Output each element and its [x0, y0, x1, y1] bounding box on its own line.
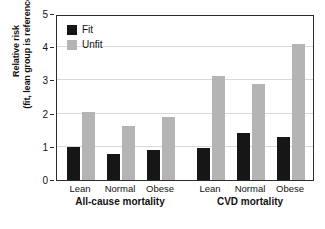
bar-unfit-obese-allcause [162, 117, 175, 180]
legend-label-fit: Fit [82, 25, 93, 35]
bar-fit-lean-allcause [67, 147, 80, 180]
plot-area: Fit Unfit [56, 15, 314, 181]
y-tick-mark-1 [50, 147, 54, 148]
gridline-1 [57, 146, 313, 147]
y-tick-mark-2 [50, 114, 54, 115]
bar-fit-obese-allcause [147, 150, 160, 180]
legend-swatch-fit [67, 25, 77, 35]
chart-legend: Fit Unfit [67, 23, 103, 53]
bar-unfit-lean-cvd [212, 76, 225, 180]
legend-label-unfit: Unfit [82, 40, 103, 50]
bar-fit-obese-cvd [277, 137, 290, 180]
legend-swatch-unfit [67, 40, 77, 50]
y-axis-ticks: 012345 [0, 15, 54, 181]
y-tick-label-0: 0 [34, 176, 48, 186]
gridline-2 [57, 113, 313, 114]
bar-unfit-normal-cvd [252, 84, 265, 180]
bar-unfit-obese-cvd [292, 44, 305, 180]
bar-unfit-normal-allcause [122, 126, 135, 180]
y-tick-label-1: 1 [34, 143, 48, 153]
y-tick-mark-5 [50, 14, 54, 15]
y-tick-mark-3 [50, 80, 54, 81]
group-label-allcause: All-cause mortality [50, 196, 190, 208]
y-tick-label-3: 3 [34, 76, 48, 86]
legend-item-fit: Fit [67, 23, 103, 36]
gridline-3 [57, 79, 313, 80]
y-tick-label-5: 5 [34, 10, 48, 20]
bar-chart: Relative risk (fit, lean group is refere… [0, 0, 325, 229]
y-tick-label-2: 2 [34, 110, 48, 120]
y-tick-mark-4 [50, 47, 54, 48]
y-tick-label-4: 4 [34, 43, 48, 53]
y-tick-mark-0 [50, 180, 54, 181]
bar-fit-lean-cvd [197, 148, 210, 180]
bar-unfit-lean-allcause [82, 112, 95, 180]
bar-fit-normal-allcause [107, 154, 120, 180]
x-tick-label-obese-cvd: Obese [260, 183, 320, 194]
legend-item-unfit: Unfit [67, 38, 103, 51]
bar-fit-normal-cvd [237, 133, 250, 180]
group-label-cvd: CVD mortality [180, 196, 320, 208]
